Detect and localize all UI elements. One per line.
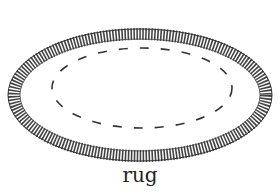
rug-drawing-icon: [0, 0, 280, 165]
rug-illustration: [0, 0, 280, 165]
caption-label: rug: [0, 163, 280, 187]
